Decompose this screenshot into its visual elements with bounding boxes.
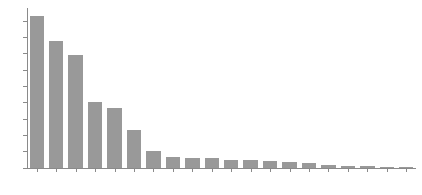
bar-chart: 0100020003000400050006000700080009000 <box>0 0 422 195</box>
bars-layer <box>27 8 416 168</box>
x-tick-mark <box>212 169 213 172</box>
x-tick-mark <box>251 169 252 172</box>
bar[interactable] <box>146 151 160 168</box>
x-tick-mark <box>348 169 349 172</box>
x-tick-mark <box>173 169 174 172</box>
bar[interactable] <box>68 55 82 168</box>
x-axis-spine <box>27 168 416 169</box>
bar[interactable] <box>127 130 141 168</box>
x-tick-mark <box>290 169 291 172</box>
x-tick-mark <box>37 169 38 172</box>
x-tick-mark <box>115 169 116 172</box>
x-tick-mark <box>95 169 96 172</box>
bar[interactable] <box>321 165 335 168</box>
bar[interactable] <box>360 166 374 168</box>
bar[interactable] <box>205 158 219 168</box>
x-tick-mark <box>153 169 154 172</box>
x-tick-mark <box>367 169 368 172</box>
bar[interactable] <box>30 16 44 168</box>
x-tick-mark <box>309 169 310 172</box>
x-tick-mark <box>406 169 407 172</box>
bar[interactable] <box>302 163 316 168</box>
bar[interactable] <box>263 161 277 168</box>
bar[interactable] <box>399 167 413 168</box>
bar[interactable] <box>243 160 257 168</box>
bar[interactable] <box>166 157 180 168</box>
bar[interactable] <box>380 167 394 168</box>
x-tick-mark <box>134 169 135 172</box>
bar[interactable] <box>49 41 63 168</box>
x-tick-mark <box>76 169 77 172</box>
x-tick-mark <box>192 169 193 172</box>
bar[interactable] <box>185 158 199 168</box>
bar[interactable] <box>282 162 296 168</box>
bar[interactable] <box>341 166 355 168</box>
x-tick-mark <box>387 169 388 172</box>
x-tick-mark <box>231 169 232 172</box>
x-tick-mark <box>56 169 57 172</box>
x-tick-mark <box>328 169 329 172</box>
x-tick-mark <box>270 169 271 172</box>
bar[interactable] <box>88 102 102 168</box>
bar[interactable] <box>224 160 238 168</box>
bar[interactable] <box>107 108 121 168</box>
